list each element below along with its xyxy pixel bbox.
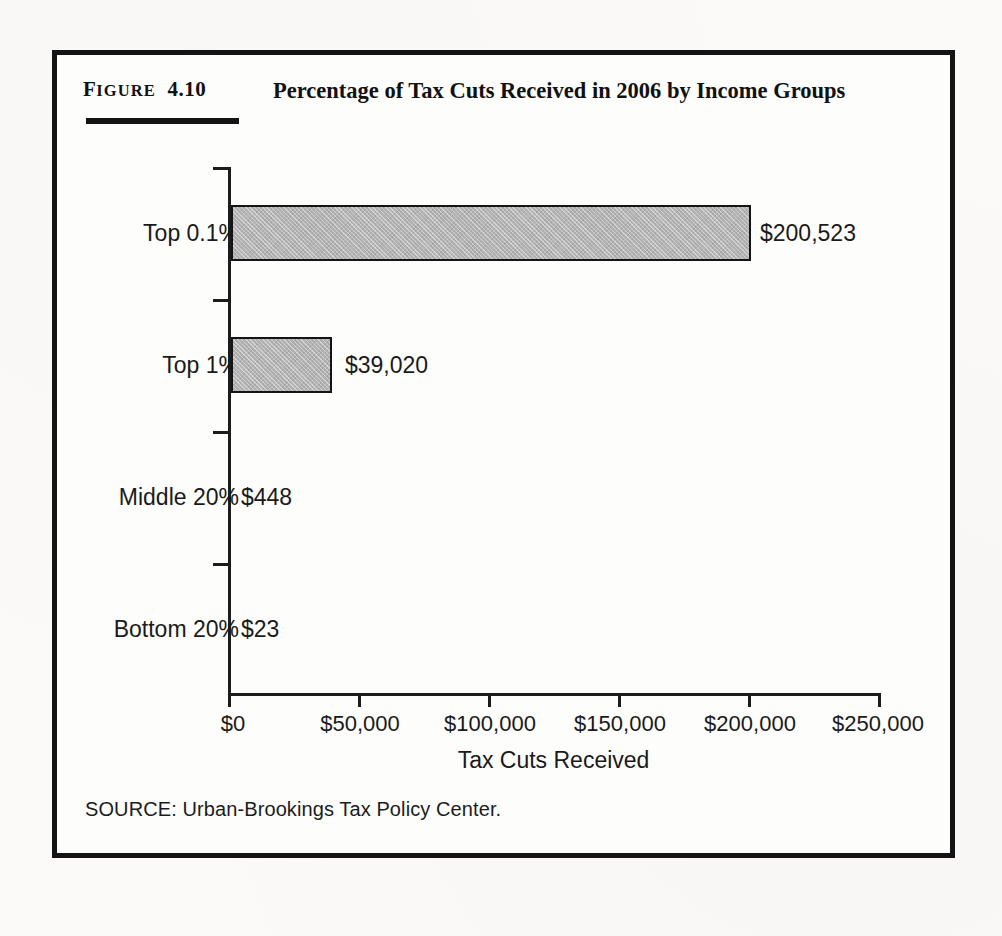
x-axis-title: Tax Cuts Received bbox=[228, 747, 879, 774]
bar-value-bottom-20: $23 bbox=[241, 616, 279, 643]
figure-frame: FIGURE 4.10 Percentage of Tax Cuts Recei… bbox=[52, 50, 955, 858]
x-axis-tick-label: $50,000 bbox=[320, 711, 400, 737]
category-label-top-0-1: Top 0.1% bbox=[143, 220, 239, 247]
x-axis-tick-label: $250,000 bbox=[832, 711, 924, 737]
category-label-top-1: Top 1% bbox=[162, 352, 239, 379]
x-axis-tick bbox=[228, 693, 231, 707]
x-axis-line bbox=[228, 693, 879, 696]
bar-top-1 bbox=[231, 337, 332, 393]
y-axis-tick bbox=[213, 431, 228, 434]
x-axis-tick bbox=[748, 693, 751, 707]
category-label-middle-20: Middle 20% bbox=[119, 484, 239, 511]
bar-top-0-1 bbox=[231, 205, 751, 261]
x-axis-tick bbox=[878, 693, 881, 707]
chart-plot-area: Top 0.1% Top 1% Middle 20% Bottom 20% $2… bbox=[57, 55, 950, 853]
bar-value-middle-20: $448 bbox=[241, 484, 292, 511]
bar-value-top-1: $39,020 bbox=[345, 352, 428, 379]
category-label-bottom-20: Bottom 20% bbox=[114, 616, 239, 643]
x-axis-tick-label: $0 bbox=[221, 711, 245, 737]
x-axis-tick-label: $200,000 bbox=[704, 711, 796, 737]
x-axis-tick-label: $100,000 bbox=[444, 711, 536, 737]
y-axis-tick bbox=[213, 299, 228, 302]
y-axis-tick bbox=[213, 563, 228, 566]
y-axis-tick bbox=[213, 167, 228, 170]
source-note: SOURCE: Urban-Brookings Tax Policy Cente… bbox=[85, 798, 501, 821]
x-axis-tick-label: $150,000 bbox=[574, 711, 666, 737]
x-axis-tick bbox=[618, 693, 621, 707]
x-axis-tick bbox=[358, 693, 361, 707]
x-axis-tick bbox=[488, 693, 491, 707]
bar-value-top-0-1: $200,523 bbox=[760, 220, 856, 247]
